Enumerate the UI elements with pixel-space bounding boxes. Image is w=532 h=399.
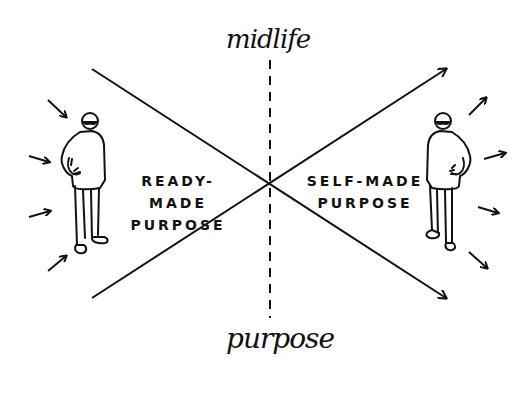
self-made-line2: PURPOSE	[300, 192, 430, 214]
self-made-line1: SELF-MADE	[300, 170, 430, 192]
self-made-purpose-label: SELF-MADE PURPOSE	[300, 170, 430, 214]
axis-bottom-label: purpose	[226, 322, 334, 355]
left-inward-arrows	[29, 100, 66, 271]
right-outward-arrows	[469, 98, 505, 268]
ready-made-purpose-label: READY-MADE PURPOSE	[118, 170, 238, 236]
axis-top-label: midlife	[226, 24, 310, 54]
ready-made-line1: READY-MADE	[118, 170, 238, 214]
left-figure	[62, 113, 108, 253]
diagram-canvas: midlife purpose READY-MADE PURPOSE SELF-…	[0, 0, 532, 399]
right-figure	[426, 113, 470, 250]
ready-made-line2: PURPOSE	[118, 214, 238, 236]
